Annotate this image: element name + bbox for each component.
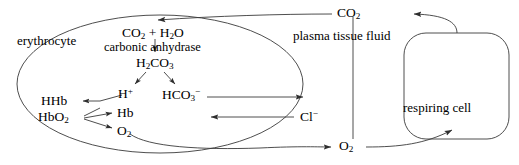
- carbonic-acid-label: H2CO3: [136, 56, 174, 71]
- hbo2-label: HbO2: [38, 110, 69, 125]
- co2-external-label: CO2: [337, 6, 360, 21]
- co2-water-label: CO2 + H2O: [122, 26, 184, 41]
- chloride-label: Cl−: [300, 110, 318, 124]
- plasma-tissue-fluid-label: plasma tissue fluid: [293, 29, 391, 42]
- bicarbonate-label: HCO3−: [162, 88, 200, 103]
- hbo2-to-hhb-arrow: [84, 108, 100, 116]
- respiring-cell-outline: [404, 33, 509, 139]
- co2-from-cell-path: [414, 14, 457, 33]
- h2co3-to-hco3-arrow: [164, 72, 175, 84]
- gas-exchange-diagram: erythrocyte CO2 + H2O carbonic anhydrase…: [0, 0, 519, 165]
- erythrocyte-label: erythrocyte: [17, 34, 76, 47]
- oxygen-external-label: O2: [339, 139, 353, 154]
- hydrogen-ion-label: H+: [118, 87, 133, 101]
- carbonic-anhydrase-label: carbonic anhydrase: [104, 41, 201, 54]
- co2-into-erythrocyte-path: [158, 14, 332, 20]
- o2-out-path: [130, 134, 331, 149]
- oxygen-erythrocyte-label: O2: [117, 124, 131, 139]
- hb-label: Hb: [117, 106, 134, 120]
- o2-into-cell-path: [366, 130, 452, 147]
- respiring-cell-label: respiring cell: [403, 101, 471, 114]
- diagram-canvas: [0, 0, 519, 165]
- hplus-to-hhb-arrow: [83, 95, 122, 101]
- h2co3-to-hplus-arrow: [135, 72, 146, 84]
- hbo2-to-o2-arrow: [84, 119, 112, 128]
- hhb-label: HHb: [41, 94, 67, 108]
